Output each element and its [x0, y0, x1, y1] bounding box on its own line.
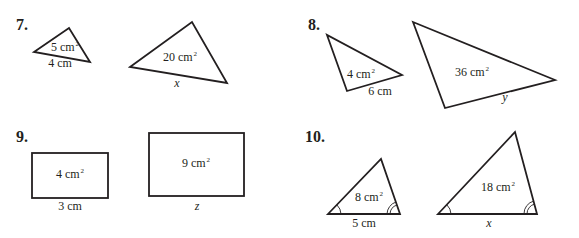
area-value: 18: [481, 180, 493, 194]
area-exponent: 2: [380, 190, 384, 198]
p10-small-side-label: 5 cm: [352, 216, 376, 231]
p10-large-side-label: x: [486, 216, 491, 231]
p9-small-area-label: 4 cm2: [56, 167, 84, 182]
area-exponent: 2: [372, 67, 376, 75]
area-value: 20: [163, 50, 175, 64]
p9-large-area-label: 9 cm2: [182, 156, 210, 171]
area-exponent: 2: [76, 40, 80, 48]
area-exponent: 2: [207, 156, 211, 164]
problem-7-number: 7.: [16, 16, 28, 34]
area-value: 5: [51, 40, 57, 54]
p8-small-side-label: 6 cm: [368, 84, 392, 99]
p10-large-triangle: [438, 132, 537, 214]
p10-small-triangle: [328, 159, 400, 214]
area-exponent: 2: [486, 65, 490, 73]
area-value: 36: [455, 65, 467, 79]
p10-large-area-label: 18 cm2: [481, 180, 515, 195]
p9-small-side-label: 3 cm: [58, 199, 82, 214]
problem-8-number: 8.: [308, 16, 320, 34]
area-unit: cm: [356, 67, 371, 81]
area-exponent: 2: [512, 180, 516, 188]
problem-10-number: 10.: [305, 128, 325, 146]
area-value: 8: [355, 190, 361, 204]
area-unit: cm: [60, 40, 75, 54]
area-value: 4: [347, 67, 353, 81]
area-unit: cm: [65, 167, 80, 181]
area-unit: cm: [178, 50, 193, 64]
p8-small-triangle: [327, 35, 402, 91]
p7-small-side-label: 4 cm: [48, 56, 72, 71]
area-unit: cm: [191, 156, 206, 170]
p8-large-side-label: y: [502, 90, 507, 105]
p7-large-side-label: x: [174, 76, 179, 91]
area-exponent: 2: [194, 50, 198, 58]
p7-large-area-label: 20 cm2: [163, 50, 197, 65]
area-value: 9: [182, 156, 188, 170]
p10-large-single-angle-mark-icon: [447, 205, 451, 214]
p9-large-side-label: z: [195, 199, 200, 214]
area-value: 4: [56, 167, 62, 181]
area-unit: cm: [470, 65, 485, 79]
problem-9-number: 9.: [16, 128, 28, 146]
area-unit: cm: [496, 180, 511, 194]
p8-small-area-label: 4 cm2: [347, 67, 375, 82]
area-exponent: 2: [81, 167, 85, 175]
p10-small-single-angle-mark-icon: [337, 205, 341, 214]
p10-small-double-angle-mark-icon: [387, 202, 396, 214]
area-unit: cm: [364, 190, 379, 204]
figures-canvas: [0, 0, 579, 238]
p8-large-area-label: 36 cm2: [455, 65, 489, 80]
p10-small-area-label: 8 cm2: [355, 190, 383, 205]
p10-small-double-angle-mark-icon-inner: [390, 205, 397, 214]
p7-small-area-label: 5 cm2: [51, 40, 79, 55]
